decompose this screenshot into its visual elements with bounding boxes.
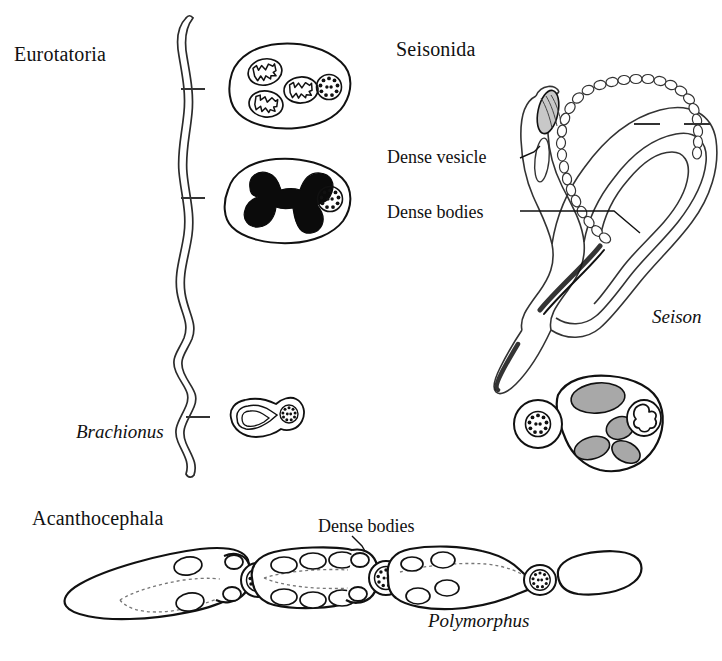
taxon-label-polymorphus: Polymorphus (428, 611, 529, 630)
acanthocephala-stage-4 (558, 551, 642, 594)
seison-cross-section-nucleus (627, 400, 661, 436)
callout-dense-vesicle: Dense vesicle (387, 148, 486, 166)
acanthocephala-stage-2 (252, 547, 403, 608)
group-title-eurotatoria: Eurotatoria (14, 44, 106, 64)
seison-dense-rod (497, 246, 604, 390)
diagram-artwork (0, 0, 722, 661)
seison-cross-section (514, 376, 663, 472)
acanthocephala-stage-1 (65, 548, 275, 619)
brachionus-sperm-outline (174, 16, 196, 477)
group-title-acanthocephala: Acanthocephala (32, 508, 164, 528)
callout-dense-bodies-seison: Dense bodies (387, 203, 483, 221)
eurotatoria-section-tail (231, 398, 304, 437)
diagram-canvas: Eurotatoria Seisonida Acanthocephala Den… (0, 0, 722, 661)
taxon-label-brachionus: Brachionus (76, 422, 164, 441)
group-title-seisonida: Seisonida (396, 39, 476, 59)
callout-dense-bodies-acanthocephala: Dense bodies (318, 517, 414, 535)
eurotatoria-section-mitochondrial (229, 44, 350, 129)
acanthocephala-stage-3 (388, 547, 556, 610)
seison-cross-section-axoneme (514, 400, 562, 448)
eurotatoria-section-nuclear (225, 159, 351, 243)
eurotatoria-leader-ticks (181, 89, 210, 417)
taxon-label-seison: Seison (652, 307, 702, 326)
